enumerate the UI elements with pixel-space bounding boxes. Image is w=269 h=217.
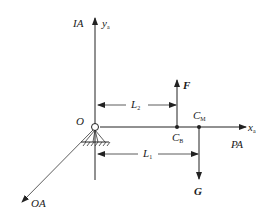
force-f-label: F	[182, 79, 191, 91]
force-g-label: G	[194, 185, 202, 197]
mechanics-free-body-diagram: IA ya xa PA OA O F CB G CM	[0, 0, 269, 217]
ia-label: IA	[72, 17, 84, 29]
pa-label: PA	[230, 138, 243, 150]
oa-axis	[22, 130, 93, 202]
cm-label: CM	[193, 109, 206, 122]
l2-label: L2	[130, 98, 140, 111]
l1-label: L1	[142, 147, 152, 160]
x-axis-label: xa	[247, 121, 256, 134]
oa-label: OA	[31, 197, 46, 209]
point-cm	[197, 125, 201, 129]
cb-label: CB	[172, 131, 183, 144]
y-axis-label: ya	[101, 17, 110, 30]
point-cb	[175, 125, 179, 129]
origin-label: O	[76, 115, 84, 127]
